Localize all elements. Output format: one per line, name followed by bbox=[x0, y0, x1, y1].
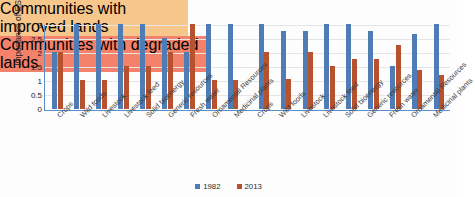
x-axis-labels-degraded-lands: CropsWild foodsLivestockLivestock feedSo… bbox=[244, 113, 442, 173]
y-tick-1: 1 bbox=[22, 76, 42, 85]
y-tick-0-5: 0.5 bbox=[22, 90, 42, 99]
y-tick-0: 0 bbox=[22, 105, 42, 114]
chart-legend: 19822013 bbox=[0, 182, 457, 191]
x-axis-labels-improved-lands: CropsWild foodsLivestockLivestock feedSo… bbox=[44, 113, 243, 173]
legend-swatch-icon bbox=[195, 184, 200, 189]
bar-1982 bbox=[281, 31, 286, 108]
bar-group bbox=[47, 25, 69, 109]
legend-item-1982[interactable]: 1982 bbox=[195, 182, 220, 191]
bar-2013 bbox=[80, 80, 85, 108]
y-tick-2-5: 2.5 bbox=[22, 34, 42, 43]
legend-label: 1982 bbox=[203, 182, 220, 191]
bar-2013 bbox=[124, 66, 129, 108]
bar-2013 bbox=[58, 52, 63, 108]
bar-group bbox=[68, 25, 90, 109]
y-tick-3: 3 bbox=[22, 20, 42, 29]
y-axis-ticks: 00.511.522.53 bbox=[22, 22, 42, 112]
legend-swatch-icon bbox=[237, 184, 242, 189]
panel-degraded-lands-bars bbox=[253, 25, 450, 109]
bar-1982 bbox=[52, 52, 57, 108]
legend-label: 2013 bbox=[245, 182, 262, 191]
bar-1982 bbox=[74, 24, 79, 109]
y-tick-2: 2 bbox=[22, 48, 42, 57]
legend-item-2013[interactable]: 2013 bbox=[237, 182, 262, 191]
y-tick-1-5: 1.5 bbox=[22, 62, 42, 71]
